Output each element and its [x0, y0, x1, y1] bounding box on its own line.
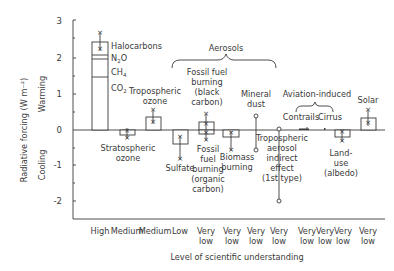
svg-text:×: ×	[150, 105, 156, 114]
y-axis-title: Radiative forcing (W m⁻²)	[19, 78, 29, 183]
bar-tropospheric-ozone: × × Tropospheric ozone	[128, 86, 181, 130]
svg-text:Very: Very	[334, 226, 352, 236]
svg-text:High: High	[91, 226, 110, 236]
bar-land-use-albedo: × × Land- use (albedo)	[324, 127, 358, 178]
svg-text:Very: Very	[270, 226, 288, 236]
cooling-label: Cooling	[37, 150, 47, 181]
svg-text:low: low	[361, 236, 375, 246]
svg-text:×: ×	[177, 154, 183, 163]
svg-text:carbon): carbon)	[192, 184, 223, 194]
y-tick-3: 3	[57, 16, 62, 26]
svg-text:low: low	[249, 236, 263, 246]
radiative-forcing-chart: 3 2 1 0 -1 -2 Radiative forcing (W m⁻²) …	[0, 0, 394, 271]
svg-text:×: ×	[97, 44, 103, 53]
svg-text:×: ×	[177, 132, 183, 141]
svg-text:low: low	[272, 236, 286, 246]
svg-text:(black: (black	[195, 87, 220, 97]
svg-text:×: ×	[203, 119, 209, 128]
svg-text:Cirrus: Cirrus	[318, 112, 342, 122]
svg-text:×: ×	[150, 117, 156, 126]
x-tick-labels: High Medium Medium Low Very low Very low…	[91, 226, 378, 246]
label-co2: CO2	[111, 83, 127, 94]
svg-text:low: low	[225, 236, 239, 246]
aviation-group: Aviation-induced Contrails Cirrus	[283, 89, 351, 130]
svg-text:dust: dust	[247, 99, 266, 109]
x-axis-title: Level of scientific understanding	[170, 252, 303, 262]
svg-text:×: ×	[228, 128, 234, 137]
range-aerosol-indirect-effect: Tropospheric aerosol indirect effect (1s…	[255, 127, 308, 203]
svg-text:burning: burning	[221, 162, 252, 172]
svg-text:low: low	[336, 236, 350, 246]
svg-text:Tropospheric: Tropospheric	[128, 86, 181, 96]
svg-text:Very: Very	[298, 226, 316, 236]
svg-text:Low: Low	[172, 226, 188, 236]
svg-text:Very: Very	[359, 226, 377, 236]
y-tick-0: 0	[57, 125, 62, 135]
y-tick-neg2: -2	[54, 196, 62, 206]
y-axis: 3 2 1 0 -1 -2 Radiative forcing (W m⁻²) …	[19, 16, 76, 219]
svg-text:low: low	[199, 236, 213, 246]
svg-text:×: ×	[365, 105, 371, 114]
svg-text:×: ×	[203, 109, 209, 118]
svg-text:ozone: ozone	[143, 96, 168, 106]
svg-text:ozone: ozone	[116, 153, 141, 163]
svg-text:Very: Very	[197, 226, 215, 236]
bar-greenhouse-gases: × × Halocarbons N2O CH4 CO2	[92, 28, 162, 130]
svg-text:Mineral: Mineral	[241, 89, 271, 99]
svg-text:×: ×	[124, 133, 130, 142]
bar-stratospheric-ozone: × × Stratospheric ozone	[101, 126, 156, 163]
svg-text:burning: burning	[191, 77, 222, 87]
y-tick-1: 1	[57, 89, 62, 99]
svg-text:Contrails: Contrails	[283, 112, 319, 122]
svg-text:use: use	[334, 158, 349, 168]
bar-fossil-fuel-carbon: × × × × Fossil fuel burning (black carbo…	[187, 67, 228, 194]
svg-text:×: ×	[203, 135, 209, 144]
svg-text:Tropospheric: Tropospheric	[255, 133, 308, 143]
y-tick-neg1: -1	[54, 160, 62, 170]
bar-solar: × × Solar	[358, 95, 379, 130]
label-n2o: N2O	[111, 53, 127, 64]
svg-text:indirect: indirect	[267, 153, 299, 163]
label-ch4: CH4	[111, 67, 127, 78]
bar-sulfate: × × Sulfate	[166, 130, 195, 173]
svg-text:Aerosols: Aerosols	[209, 43, 244, 53]
svg-text:×: ×	[97, 28, 103, 37]
warming-label: Warming	[37, 76, 47, 112]
svg-text:Very: Very	[223, 226, 241, 236]
svg-text:(organic: (organic	[191, 174, 225, 184]
svg-text:low: low	[300, 236, 314, 246]
svg-text:Land-: Land-	[330, 148, 353, 158]
svg-text:Sulfate: Sulfate	[166, 163, 195, 173]
svg-text:fuel: fuel	[200, 154, 215, 164]
aerosols-group: Aerosols	[172, 43, 276, 68]
y-tick-2: 2	[57, 53, 62, 63]
svg-text:carbon): carbon)	[191, 97, 222, 107]
svg-text:(1st type): (1st type)	[262, 173, 302, 183]
svg-text:Very: Very	[316, 226, 334, 236]
svg-text:×: ×	[339, 136, 345, 145]
svg-text:Biomass: Biomass	[220, 152, 254, 162]
svg-text:Medium: Medium	[139, 226, 172, 236]
svg-text:Solar: Solar	[358, 95, 379, 105]
svg-text:Aviation-induced: Aviation-induced	[283, 89, 351, 99]
svg-text:Fossil: Fossil	[197, 144, 220, 154]
svg-text:effect: effect	[270, 163, 294, 173]
svg-text:burning: burning	[192, 164, 223, 174]
svg-text:low: low	[318, 236, 332, 246]
svg-text:×: ×	[339, 127, 345, 136]
svg-text:Fossil fuel: Fossil fuel	[187, 67, 228, 77]
svg-text:Stratospheric: Stratospheric	[101, 143, 156, 153]
svg-text:Very: Very	[247, 226, 265, 236]
bar-biomass-burning: × × Biomass burning	[220, 128, 254, 172]
svg-text:(albedo): (albedo)	[324, 168, 358, 178]
label-halocarbons: Halocarbons	[111, 41, 162, 51]
svg-text:aerosol: aerosol	[267, 143, 297, 153]
svg-text:×: ×	[365, 118, 371, 127]
